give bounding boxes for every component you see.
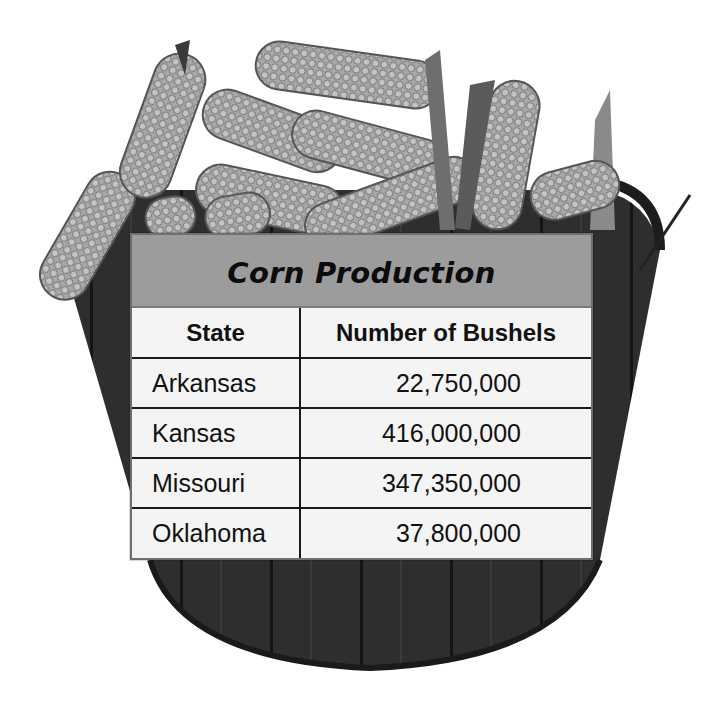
column-header-bushels: Number of Bushels bbox=[300, 308, 591, 358]
state-cell: Arkansas bbox=[132, 358, 300, 408]
bushels-cell: 37,800,000 bbox=[300, 508, 591, 558]
table-row: Missouri 347,350,000 bbox=[132, 458, 591, 508]
header-row: State Number of Bushels bbox=[132, 308, 591, 358]
state-cell: Missouri bbox=[132, 458, 300, 508]
table-title: Corn Production bbox=[132, 235, 591, 308]
table-row: Oklahoma 37,800,000 bbox=[132, 508, 591, 558]
column-header-state: State bbox=[132, 308, 300, 358]
bushels-cell: 22,750,000 bbox=[300, 358, 591, 408]
table-row: Arkansas 22,750,000 bbox=[132, 358, 591, 408]
state-cell: Oklahoma bbox=[132, 508, 300, 558]
data-table: State Number of Bushels Arkansas 22,750,… bbox=[132, 308, 591, 558]
bushels-cell: 347,350,000 bbox=[300, 458, 591, 508]
state-cell: Kansas bbox=[132, 408, 300, 458]
bushels-cell: 416,000,000 bbox=[300, 408, 591, 458]
corn-production-table: Corn Production State Number of Bushels … bbox=[130, 233, 593, 560]
table-row: Kansas 416,000,000 bbox=[132, 408, 591, 458]
